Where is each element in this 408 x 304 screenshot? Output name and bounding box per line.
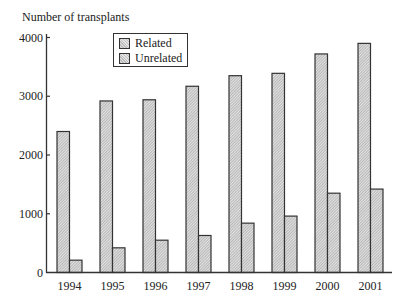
x-tick-label: 1995	[93, 279, 133, 294]
legend-swatch-unrelated	[119, 53, 130, 64]
y-tick-label: 2000	[3, 148, 43, 163]
x-tick-label: 2000	[308, 279, 348, 294]
y-tick-label: 1000	[3, 207, 43, 222]
x-tick-label: 1996	[136, 279, 176, 294]
x-tick-label: 1997	[179, 279, 219, 294]
y-tick-label: 4000	[3, 31, 43, 46]
bar-unrelated-1995	[113, 248, 126, 273]
bar-related-2000	[315, 54, 328, 273]
y-axis-title: Number of transplants	[22, 10, 129, 25]
legend-label-related: Related	[135, 36, 172, 51]
bar-related-1994	[57, 132, 70, 273]
legend-label-unrelated: Unrelated	[135, 51, 182, 66]
bar-unrelated-2000	[328, 193, 341, 272]
bar-related-1998	[229, 76, 242, 273]
bars-group	[57, 43, 383, 272]
bar-unrelated-1997	[199, 235, 212, 272]
legend-swatch-related	[119, 38, 130, 49]
legend: Related Unrelated	[113, 33, 188, 67]
bar-unrelated-2001	[371, 189, 384, 272]
bar-unrelated-1996	[156, 240, 169, 272]
bar-chart: Number of transplants 01000200030004000 …	[0, 0, 408, 304]
x-tick-label: 1999	[265, 279, 305, 294]
bar-related-1997	[186, 86, 199, 272]
bar-related-1996	[143, 100, 156, 273]
bar-unrelated-1998	[242, 223, 255, 272]
bar-unrelated-1994	[70, 260, 83, 272]
bar-related-2001	[358, 43, 371, 272]
legend-item-unrelated: Unrelated	[119, 52, 182, 65]
bar-related-1999	[272, 73, 285, 272]
y-tick-label: 0	[3, 266, 43, 281]
bar-unrelated-1999	[285, 216, 298, 272]
x-tick-label: 2001	[351, 279, 391, 294]
y-tick-label: 3000	[3, 89, 43, 104]
x-tick-label: 1998	[222, 279, 262, 294]
x-tick-label: 1994	[50, 279, 90, 294]
legend-item-related: Related	[119, 37, 172, 50]
chart-plot-area	[0, 0, 408, 304]
bar-related-1995	[100, 101, 113, 273]
